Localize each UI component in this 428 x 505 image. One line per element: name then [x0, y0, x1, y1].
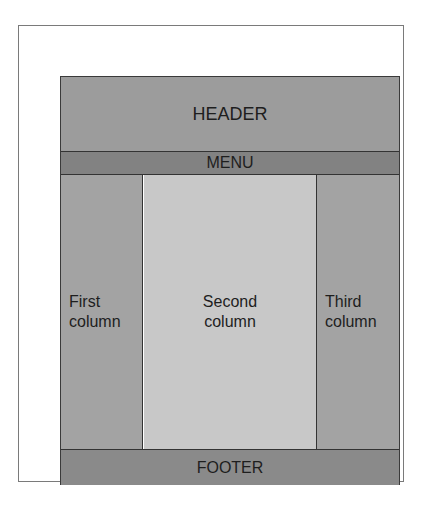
second-column: Second column — [144, 175, 317, 449]
menu-region: MENU — [61, 152, 399, 175]
footer-label: FOOTER — [197, 459, 264, 477]
third-column: Third column — [317, 175, 399, 449]
page-layout: HEADER MENU First column Second column T… — [60, 76, 400, 485]
header-region: HEADER — [61, 77, 399, 152]
header-label: HEADER — [192, 104, 267, 125]
first-column: First column — [61, 175, 143, 449]
third-column-label: Third column — [325, 292, 377, 332]
second-column-label: Second column — [203, 292, 257, 332]
diagram-frame: HEADER MENU First column Second column T… — [18, 25, 404, 482]
menu-label: MENU — [206, 154, 253, 172]
first-column-label: First column — [69, 292, 121, 332]
footer-region: FOOTER — [61, 449, 399, 485]
